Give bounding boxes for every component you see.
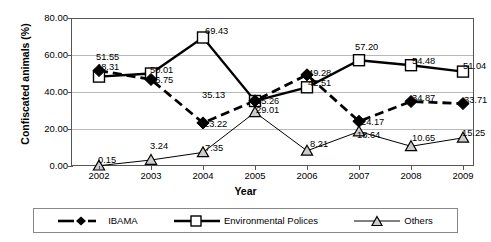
value-label-envpolices-2007: 57.20 bbox=[355, 42, 378, 52]
y-tick-60: 60.00 bbox=[24, 50, 68, 60]
x-tick-2009: 2009 bbox=[433, 170, 491, 181]
value-label-others-2004: 7.35 bbox=[205, 143, 223, 153]
value-label-others-2008: 10.65 bbox=[412, 133, 435, 143]
x-tick-2005: 2005 bbox=[225, 170, 285, 181]
value-label-others-2005: 29.01 bbox=[256, 105, 279, 115]
y-tickmark-0 bbox=[68, 166, 73, 167]
x-tick-2007: 2007 bbox=[329, 170, 389, 181]
legend-item-ibama[interactable]: IBAMA bbox=[58, 215, 138, 227]
chart-container: Confiscated animals (%) 80.00 60.00 40.0… bbox=[0, 0, 491, 242]
value-label-envpolices-2006: 42.51 bbox=[308, 78, 331, 88]
y-tick-20: 20.00 bbox=[24, 124, 68, 134]
value-label-others-2009: 15.25 bbox=[462, 128, 485, 138]
value-label-others-2003: 3.24 bbox=[150, 141, 168, 151]
legend-label-others: Others bbox=[404, 215, 433, 226]
legend-item-others[interactable]: Others bbox=[354, 215, 433, 227]
x-tick-2002: 2002 bbox=[69, 170, 129, 181]
value-label-ibama-2004: 23.22 bbox=[204, 119, 227, 129]
value-label-ibama-2007: 24.17 bbox=[361, 117, 384, 127]
y-tick-80: 80.00 bbox=[24, 13, 68, 23]
value-label-envpolices-2005: 35.13 bbox=[202, 90, 225, 100]
x-tick-2008: 2008 bbox=[381, 170, 441, 181]
legend-marker-open-triangle-icon bbox=[354, 215, 400, 227]
legend-label-environmental-polices: Environmental Polices bbox=[224, 215, 318, 226]
legend-marker-filled-diamond-icon bbox=[58, 215, 104, 227]
x-tick-2004: 2004 bbox=[173, 170, 233, 181]
legend-marker-open-square-icon bbox=[174, 215, 220, 227]
value-label-envpolices-2003: 50.01 bbox=[150, 65, 173, 75]
value-label-ibama-2003: 46.75 bbox=[150, 75, 173, 85]
value-label-ibama-2006: 49.28 bbox=[308, 68, 331, 78]
value-label-others-2007: 18.64 bbox=[357, 130, 380, 140]
y-axis-ticks: 80.00 60.00 40.00 20.00 0.00 bbox=[20, 18, 68, 166]
series-line-others bbox=[99, 112, 463, 165]
value-label-ibama-2009: 33.71 bbox=[464, 95, 487, 105]
x-tick-2003: 2003 bbox=[121, 170, 181, 181]
value-label-others-2002: 0.15 bbox=[98, 155, 116, 165]
legend-item-environmental-polices[interactable]: Environmental Polices bbox=[174, 215, 318, 227]
value-label-ibama-2002: 51.55 bbox=[96, 52, 119, 62]
value-label-envpolices-2009: 51.04 bbox=[463, 61, 486, 71]
legend-label-ibama: IBAMA bbox=[108, 215, 138, 226]
value-label-envpolices-2002: 48.31 bbox=[96, 62, 119, 72]
value-label-ibama-2008: 34.87 bbox=[412, 93, 435, 103]
value-label-envpolices-2008: 54.48 bbox=[412, 56, 435, 66]
x-axis-title: Year bbox=[0, 185, 491, 197]
y-tick-40: 40.00 bbox=[24, 87, 68, 97]
chart-legend: IBAMA Environmental Polices Others bbox=[33, 208, 458, 233]
series-layer bbox=[71, 18, 474, 166]
x-tick-2006: 2006 bbox=[277, 170, 337, 181]
value-label-others-2006: 8.21 bbox=[310, 139, 328, 149]
value-label-envpolices-2004: 69.43 bbox=[205, 26, 228, 36]
y-tick-0: 0.00 bbox=[24, 161, 68, 171]
